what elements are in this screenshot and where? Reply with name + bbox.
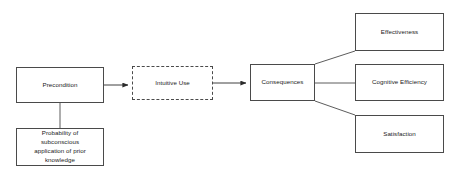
diagram-canvas: Precondition Probability of subconscious… <box>0 0 462 175</box>
node-intuitive-use[interactable]: Intuitive Use <box>132 66 213 100</box>
node-effectiveness-label: Effectiveness <box>378 28 421 37</box>
node-precondition[interactable]: Precondition <box>16 67 104 103</box>
node-satisfaction[interactable]: Satisfaction <box>355 115 444 153</box>
node-intuitive-use-label: Intuitive Use <box>152 79 193 88</box>
node-precondition-label: Precondition <box>40 81 81 90</box>
node-satisfaction-label: Satisfaction <box>380 130 419 139</box>
node-probability-of-subconscious-application[interactable]: Probability of subconscious application … <box>16 128 104 166</box>
node-consequences-label: Consequences <box>259 78 307 87</box>
node-probability-label: Probability of subconscious application … <box>31 129 89 164</box>
node-consequences[interactable]: Consequences <box>250 64 315 101</box>
node-effectiveness[interactable]: Effectiveness <box>355 13 444 51</box>
edge-consequences-to-effectiveness <box>315 51 355 64</box>
edge-consequences-to-satisfaction <box>315 101 355 115</box>
node-cognitive-efficiency[interactable]: Cognitive Efficiency <box>355 64 444 101</box>
node-cognitive-efficiency-label: Cognitive Efficiency <box>369 78 430 87</box>
